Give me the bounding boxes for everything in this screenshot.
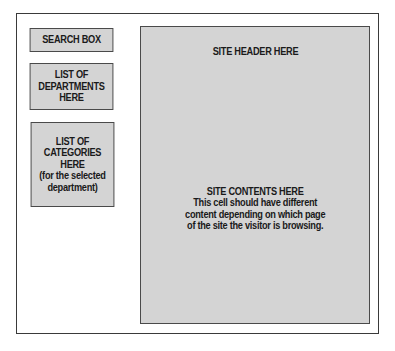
departments-list-label: LIST OF DEPARTMENTS HERE — [38, 69, 104, 104]
site-contents-description: This cell should have different content … — [185, 197, 325, 232]
main-content-placeholder: SITE HEADER HERE SITE CONTENTS HERE This… — [140, 26, 370, 324]
search-box-label: SEARCH BOX — [42, 34, 101, 46]
site-header-label: SITE HEADER HERE — [212, 46, 298, 58]
site-contents-block: SITE CONTENTS HERE This cell should have… — [185, 186, 325, 232]
categories-list-placeholder: LIST OF CATEGORIES HERE (for the selecte… — [31, 122, 115, 207]
departments-list-placeholder: LIST OF DEPARTMENTS HERE — [30, 63, 114, 110]
site-contents-title: SITE CONTENTS HERE — [185, 186, 325, 198]
search-box-placeholder: SEARCH BOX — [30, 28, 114, 52]
categories-list-label: LIST OF CATEGORIES HERE (for the selecte… — [39, 136, 105, 194]
